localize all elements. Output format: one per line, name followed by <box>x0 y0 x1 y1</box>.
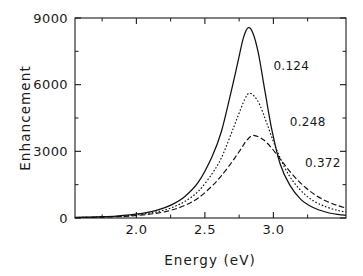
chart-figure: 2.02.53.0 0300060009000 0.1240.2480.372 … <box>0 0 363 276</box>
y-tick-label: 9000 <box>33 11 68 26</box>
y-axis-title: Enhancement <box>17 65 33 171</box>
x-axis-ticks-top <box>102 18 308 24</box>
enhancement-vs-energy-chart: 2.02.53.0 0300060009000 0.1240.2480.372 … <box>0 0 363 276</box>
curve-label: 0.372 <box>305 156 341 170</box>
curve-label: 0.248 <box>290 115 326 129</box>
y-axis-ticks-right <box>340 18 346 218</box>
y-tick-label: 3000 <box>33 144 68 159</box>
x-tick-label: 3.0 <box>262 222 284 237</box>
x-axis-tick-labels: 2.02.53.0 <box>125 222 284 237</box>
x-tick-label: 2.0 <box>125 222 147 237</box>
y-axis-ticks-left <box>75 18 81 218</box>
y-axis-tick-labels: 0300060009000 <box>33 11 68 226</box>
y-tick-label: 6000 <box>33 77 68 92</box>
x-tick-label: 2.5 <box>194 222 216 237</box>
y-tick-label: 0 <box>59 211 68 226</box>
curve-label: 0.124 <box>273 59 309 73</box>
curve-annotations: 0.1240.2480.372 <box>273 59 340 170</box>
x-axis-title: Energy (eV) <box>164 252 256 268</box>
